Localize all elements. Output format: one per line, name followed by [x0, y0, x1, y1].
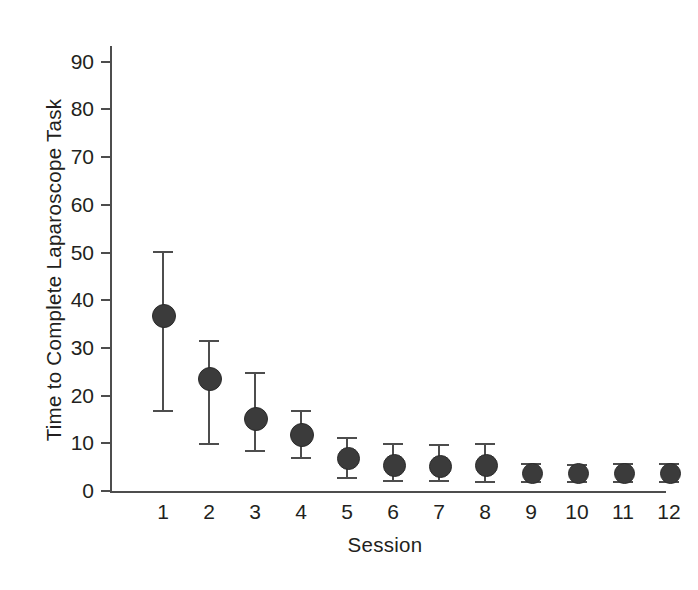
error-bar-cap-upper: [383, 443, 403, 445]
error-bar-cap-lower: [291, 457, 311, 459]
data-point-marker: [383, 454, 406, 477]
data-point-marker: [614, 463, 635, 484]
error-bar-cap-upper: [337, 437, 357, 439]
error-bar-cap-upper: [475, 443, 495, 445]
data-series: [0, 0, 698, 590]
error-bar-line: [162, 251, 164, 410]
data-point-marker: [337, 447, 360, 470]
data-point-marker: [522, 463, 543, 484]
data-point-marker: [198, 367, 222, 391]
data-point-marker: [244, 407, 268, 431]
error-bar-cap-lower: [475, 481, 495, 483]
data-point-marker: [290, 423, 314, 447]
error-bar-cap-upper: [245, 372, 265, 374]
error-bar-cap-upper: [291, 410, 311, 412]
error-bar-cap-lower: [383, 480, 403, 482]
data-point-marker: [568, 463, 589, 484]
error-bar-line: [208, 340, 210, 443]
error-bar-cap-upper: [429, 444, 449, 446]
error-bar-cap-lower: [199, 443, 219, 445]
error-bar-cap-lower: [153, 410, 173, 412]
data-point-marker: [152, 304, 176, 328]
error-bar-cap-upper: [199, 340, 219, 342]
data-point-marker: [429, 455, 452, 478]
error-bar-cap-lower: [245, 450, 265, 452]
chart-figure: Time to Complete Laparoscope Task Sessio…: [0, 0, 698, 590]
error-bar-cap-lower: [337, 477, 357, 479]
error-bar-cap-upper: [153, 251, 173, 253]
error-bar-cap-lower: [429, 480, 449, 482]
data-point-marker: [660, 463, 681, 484]
data-point-marker: [475, 454, 498, 477]
